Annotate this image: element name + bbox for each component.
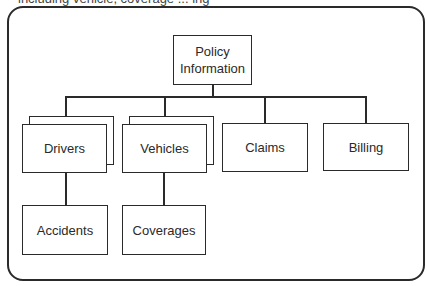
connector-vehicles <box>164 96 166 117</box>
node-label: Accidents <box>37 222 93 239</box>
node-label: Billing <box>349 139 384 156</box>
node-claims: Claims <box>222 123 308 172</box>
node-billing: Billing <box>323 123 409 171</box>
node-label: Coverages <box>133 222 196 239</box>
connector-drivers <box>65 96 67 117</box>
node-policy-information: Policy Information <box>173 35 252 85</box>
node-label: Claims <box>245 139 285 156</box>
node-label: Drivers <box>44 140 85 157</box>
connector-horizontal-bus <box>65 96 366 98</box>
node-coverages: Coverages <box>122 205 206 255</box>
node-label: Policy Information <box>178 43 248 77</box>
node-vehicles: Vehicles <box>122 124 207 173</box>
connector-claims <box>264 96 266 123</box>
node-label: Vehicles <box>140 140 188 157</box>
connector-coverages <box>163 172 165 205</box>
connector-accidents <box>65 172 67 205</box>
node-drivers: Drivers <box>22 124 107 173</box>
connector-billing <box>365 96 367 123</box>
node-accidents: Accidents <box>22 205 108 255</box>
